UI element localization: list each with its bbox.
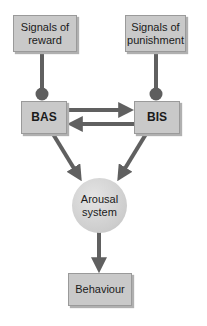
punishment-to-bis-connector: [150, 52, 163, 101]
behaviour-node: Behaviour: [68, 273, 132, 306]
punishment-label-line2: punishment: [127, 34, 184, 47]
reward-to-bas-connector: [36, 52, 49, 101]
punishment-label-line1: Signals of: [127, 21, 184, 34]
arousal-label-line2: system: [81, 206, 118, 219]
bas-bis-diagram: Signals of reward Signals of punishment …: [0, 0, 207, 326]
bas-label: BAS: [31, 111, 56, 124]
arousal-system-node: Arousal system: [72, 178, 127, 233]
bis-to-arousal-arrow: [121, 134, 146, 175]
signals-of-reward-node: Signals of reward: [13, 15, 77, 52]
reward-label-line2: reward: [21, 34, 69, 47]
signals-of-punishment-node: Signals of punishment: [125, 15, 186, 52]
reward-label-line1: Signals of: [21, 21, 69, 34]
arousal-label-line1: Arousal: [81, 193, 118, 206]
bis-label: BIS: [147, 111, 167, 124]
bas-node: BAS: [21, 101, 67, 134]
behaviour-label: Behaviour: [75, 283, 125, 296]
bas-to-arousal-arrow: [53, 134, 78, 175]
bis-node: BIS: [134, 101, 180, 134]
